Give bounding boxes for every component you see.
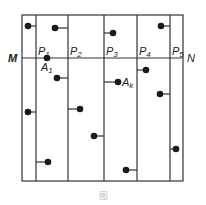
label-a1: A1 (40, 61, 53, 75)
point (110, 30, 117, 37)
point (45, 159, 52, 166)
label-p2: P2 (70, 45, 82, 59)
point (173, 146, 180, 153)
point (77, 106, 84, 113)
label-p4: P4 (139, 45, 151, 59)
point (157, 91, 164, 98)
figure-caption: 图 (99, 191, 108, 201)
point-ticks (28, 26, 176, 170)
point (158, 23, 165, 30)
label-ak: Ak (121, 76, 134, 90)
point (123, 167, 130, 174)
outer-frame (22, 15, 183, 181)
point (25, 23, 32, 30)
frame-rect (22, 15, 183, 181)
point (91, 133, 98, 140)
strip-partition-diagram: P1P2P3P4P5MNA1Ak 图 (0, 0, 206, 205)
label-p1: P1 (38, 45, 50, 59)
point (143, 67, 150, 74)
label-m: M (8, 52, 18, 64)
vertical-partition-lines (36, 15, 170, 181)
point (54, 75, 61, 82)
point-ak (115, 79, 122, 86)
points (25, 23, 180, 174)
point (52, 25, 59, 32)
label-n: N (187, 52, 195, 64)
point (25, 109, 32, 116)
label-p3: P3 (106, 45, 118, 59)
